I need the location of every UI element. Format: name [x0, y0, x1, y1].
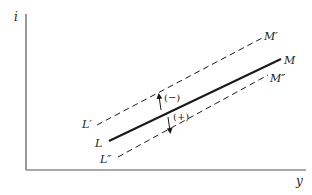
x-axis-label: y — [295, 174, 303, 188]
label-m1: M′ — [263, 30, 278, 43]
label-l2: L″ — [99, 153, 112, 166]
lm-curve-diagram: i y L′ M′ L M L″ M″ (−) (+) — [0, 0, 312, 195]
arrow-shift-up — [159, 96, 161, 110]
label-l: L — [94, 137, 102, 150]
curve-l2m2 — [118, 75, 268, 157]
curve-lm — [109, 59, 281, 141]
label-l1: L′ — [81, 118, 92, 131]
label-m: M — [283, 54, 296, 67]
label-m2: M″ — [269, 72, 286, 85]
shift-label-plus: (+) — [173, 111, 189, 122]
shift-label-minus: (−) — [164, 92, 180, 103]
arrow-shift-down — [168, 117, 170, 131]
diagram-canvas: i y L′ M′ L M L″ M″ (−) (+) — [0, 0, 312, 195]
y-axis-label: i — [14, 10, 18, 24]
